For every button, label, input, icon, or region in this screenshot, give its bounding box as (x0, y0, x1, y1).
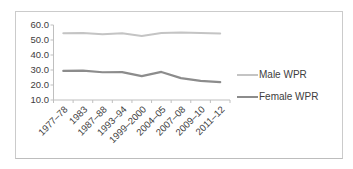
y-tick-label: 50.0 (31, 34, 50, 45)
legend-label-female: Female WPR (259, 90, 318, 103)
legend-swatch-female-line (237, 96, 258, 98)
legend-item-male-wpr: Male WPR (237, 68, 318, 81)
y-tick-label: 60.0 (31, 19, 50, 30)
series-line-male-wpr (63, 33, 220, 36)
y-tick-label: 40.0 (31, 49, 50, 60)
y-tick-label: 10.0 (31, 94, 50, 105)
chart-legend: Male WPR Female WPR (237, 68, 318, 103)
legend-label-male: Male WPR (259, 68, 307, 81)
x-tick-label: 1977–78 (36, 104, 70, 138)
legend-swatch-male-line (237, 74, 258, 76)
chart-panel: 60.050.040.030.020.010.01977–7819831987–… (0, 0, 353, 169)
y-tick-label: 20.0 (31, 79, 50, 90)
y-tick-label: 30.0 (31, 64, 50, 75)
legend-item-female-wpr: Female WPR (237, 90, 318, 103)
series-line-female-wpr (63, 71, 220, 83)
